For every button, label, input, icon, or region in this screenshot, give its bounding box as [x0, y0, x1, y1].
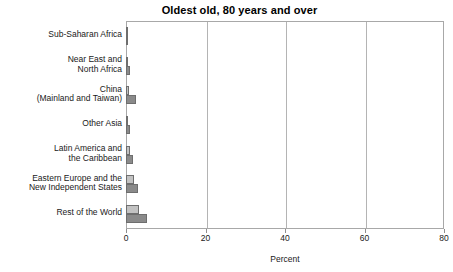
x-axis-tick-label: 60	[350, 233, 380, 243]
bar	[126, 214, 147, 223]
bar	[126, 86, 129, 95]
bar	[126, 184, 138, 193]
bar	[126, 36, 128, 45]
bar	[126, 116, 128, 125]
bar	[126, 27, 128, 36]
x-axis-tick-label: 0	[111, 233, 141, 243]
chart-title: Oldest old, 80 years and over	[0, 4, 453, 16]
bar	[126, 146, 130, 155]
x-axis-tick-label: 20	[191, 233, 221, 243]
bar	[126, 205, 139, 214]
x-axis-title: Percent	[126, 254, 444, 264]
category-label: Near East and North Africa	[0, 55, 122, 74]
bar	[126, 57, 128, 66]
bar	[126, 66, 130, 75]
bar	[126, 155, 133, 164]
category-label: Sub-Saharan Africa	[0, 30, 122, 40]
x-axis-tick-label: 40	[270, 233, 300, 243]
category-label: Eastern Europe and the New Independent S…	[0, 174, 122, 193]
x-axis-tick-label: 80	[429, 233, 453, 243]
bars-layer	[126, 21, 444, 229]
category-label: Latin America and the Caribbean	[0, 144, 122, 163]
category-label: China (Mainland and Taiwan)	[0, 85, 122, 104]
category-label: Rest of the World	[0, 208, 122, 218]
bar	[126, 125, 130, 134]
bar-chart: Oldest old, 80 years and over Sub-Sahara…	[0, 0, 453, 272]
bar	[126, 175, 134, 184]
category-axis-labels: Sub-Saharan AfricaNear East and North Af…	[0, 21, 122, 229]
bar	[126, 95, 136, 104]
category-label: Other Asia	[0, 119, 122, 129]
